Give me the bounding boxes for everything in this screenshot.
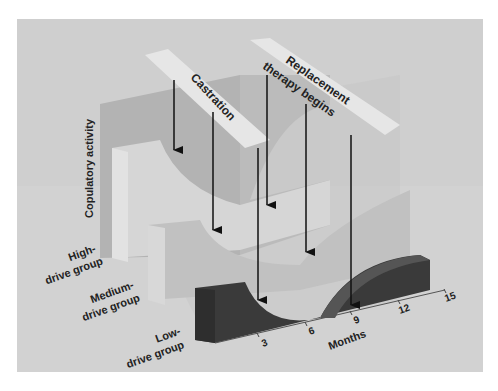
low-drive-front-face (195, 288, 215, 343)
copulatory-activity-diagram: 3 6 9 12 15 Months Copulatory activity H… (0, 0, 498, 391)
copulatory-activity-label: Copulatory activity (83, 118, 95, 218)
high-drive-front-face (112, 148, 128, 262)
medium-drive-front-face (148, 225, 165, 305)
